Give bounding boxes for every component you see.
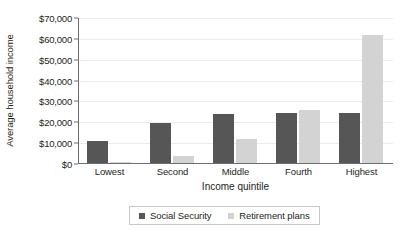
y-axis-title-text: Average household income [4, 34, 15, 147]
y-axis-tick-label: $40,000 [39, 75, 72, 86]
y-axis-tick-label: $10,000 [39, 138, 72, 149]
bar-middle-retirement-plans [236, 139, 257, 163]
bar-highest-retirement-plans [362, 35, 383, 163]
plot-area [78, 18, 393, 164]
bars-layer [79, 18, 393, 163]
bar-group [268, 18, 331, 163]
bar-lowest-social-security [87, 141, 108, 163]
legend-swatch-social-security [139, 213, 145, 219]
y-axis-tick-labels: $0$10,000$20,000$30,000$40,000$50,000$60… [26, 18, 78, 164]
bar-group [79, 18, 142, 163]
bar-chart-figure: Average household income $0$10,000$20,00… [0, 0, 401, 235]
x-axis-tick-labels: LowestSecondMiddleFourthHighest [78, 166, 393, 180]
y-axis-tick-label: $30,000 [39, 96, 72, 107]
legend-label: Retirement plans [239, 210, 309, 221]
legend-swatch-retirement-plans [228, 213, 234, 219]
bar-group [331, 18, 394, 163]
y-axis-tick-label: $70,000 [39, 13, 72, 24]
bar-highest-social-security [339, 113, 360, 163]
x-axis-tick-label-second: Second [141, 166, 204, 177]
y-axis-tick-label: $20,000 [39, 117, 72, 128]
legend-label: Social Security [150, 210, 211, 221]
x-axis-tick-label-fourth: Fourth [267, 166, 330, 177]
bar-lowest-retirement-plans [110, 162, 131, 163]
y-axis-tick-label: $0 [62, 159, 72, 170]
x-axis-tick-label-highest: Highest [330, 166, 393, 177]
x-axis-tick-label-lowest: Lowest [78, 166, 141, 177]
y-axis-tick-label: $60,000 [39, 33, 72, 44]
legend-item-retirement-plans: Retirement plans [228, 210, 309, 221]
bar-fourth-retirement-plans [299, 110, 320, 163]
bar-second-retirement-plans [173, 156, 194, 163]
legend-item-social-security: Social Security [139, 210, 211, 221]
bar-group [205, 18, 268, 163]
bar-middle-social-security [213, 114, 234, 163]
x-axis-title: Income quintile [78, 181, 393, 192]
x-axis-tick-label-middle: Middle [204, 166, 267, 177]
y-axis-title: Average household income [0, 14, 18, 166]
bar-group [142, 18, 205, 163]
x-axis-title-text: Income quintile [202, 181, 269, 192]
bar-fourth-social-security [276, 113, 297, 163]
chart-legend: Social SecurityRetirement plans [129, 206, 320, 225]
bar-second-social-security [150, 123, 171, 163]
y-axis-tick-label: $50,000 [39, 54, 72, 65]
